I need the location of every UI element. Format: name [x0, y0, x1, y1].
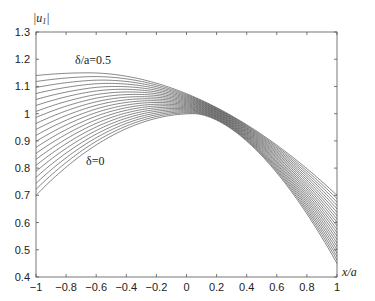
series-line-delta-0.5 — [36, 73, 337, 196]
y-tick-label: 0.6 — [15, 217, 30, 229]
x-tick-label: −1 — [30, 281, 43, 293]
x-tick-label: 1 — [334, 281, 340, 293]
x-tick-label: −0.6 — [85, 281, 107, 293]
y-tick-label: 1.3 — [15, 26, 30, 38]
series-line-delta-0.125 — [36, 108, 337, 246]
x-tick-label: −0.2 — [146, 281, 168, 293]
series-line-delta-0.075 — [36, 111, 337, 253]
y-axis: 0.40.50.60.70.80.911.11.21.3 — [15, 26, 337, 283]
series-line-delta-0.15 — [36, 107, 337, 243]
series-line-delta-0.275 — [36, 99, 337, 226]
series-line-delta-0.05 — [36, 112, 337, 257]
annotation-delta-0.5: δ/a=0.5 — [75, 53, 111, 67]
x-tick-label: −0.8 — [55, 281, 77, 293]
y-axis-label: |u1| — [33, 11, 50, 26]
x-axis-label: x/a — [341, 265, 357, 279]
y-tick-label: 0.4 — [15, 271, 30, 283]
x-tick-label: 0.8 — [299, 281, 314, 293]
series-line-delta-0.3 — [36, 97, 337, 223]
annotation-delta-0: δ=0 — [86, 154, 104, 168]
series-line-delta-0.475 — [36, 77, 337, 199]
x-axis: −1−0.8−0.6−0.4−0.200.20.40.60.81 — [30, 32, 340, 293]
x-tick-label: 0.4 — [239, 281, 254, 293]
x-tick-label: 0.6 — [269, 281, 284, 293]
y-tick-label: 0.5 — [15, 244, 30, 256]
series-line-delta-0.2 — [36, 104, 337, 236]
plot-frame — [36, 32, 337, 277]
series-line-delta-0.35 — [36, 92, 337, 216]
y-tick-label: 1.2 — [15, 53, 30, 65]
series-line-delta-0.45 — [36, 80, 337, 202]
y-tick-label: 0.8 — [15, 162, 30, 174]
x-tick-label: 0 — [183, 281, 189, 293]
chart: −1−0.8−0.6−0.4−0.200.20.40.60.81 0.40.50… — [0, 0, 375, 301]
y-tick-label: 0.9 — [15, 135, 30, 147]
curves-group — [36, 73, 337, 264]
y-tick-label: 0.7 — [15, 189, 30, 201]
y-tick-label: 1 — [24, 108, 30, 120]
x-tick-label: −0.4 — [115, 281, 137, 293]
x-tick-label: 0.2 — [209, 281, 224, 293]
y-tick-label: 1.1 — [15, 80, 30, 92]
